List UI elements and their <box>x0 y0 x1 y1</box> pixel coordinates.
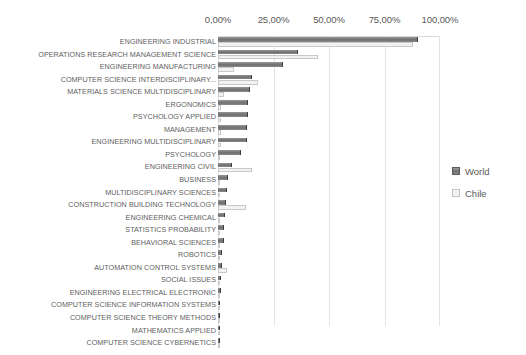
chart-category-row: ENGINEERING CIVIL <box>0 161 526 174</box>
category-bars <box>218 199 440 212</box>
chart-category-row: COMPUTER SCIENCE CYBERNETICS <box>0 337 526 350</box>
chart-category-row: OPERATIONS RESEARCH MANAGEMENT SCIENCE <box>0 49 526 62</box>
category-label: AUTOMATION CONTROL SYSTEMS <box>94 263 216 272</box>
bar-chile <box>218 331 220 336</box>
x-axis-tick-label: 0,00% <box>205 14 231 25</box>
bar-chile <box>218 243 220 248</box>
bar-chile <box>218 118 221 123</box>
category-bars <box>218 237 440 250</box>
chart-category-row: ENGINEERING MULTIDISCIPLINARY <box>0 136 526 149</box>
category-label: ERGONOMICS <box>166 100 216 109</box>
bar-chile <box>218 55 318 60</box>
category-label: ENGINEERING MULTIDISCIPLINARY <box>91 137 216 146</box>
chart-category-row: PSYCHOLOGY <box>0 149 526 162</box>
category-bars <box>218 212 440 225</box>
category-label: ENGINEERING ELECTRICAL ELECTRONIC <box>70 288 216 297</box>
bar-chile <box>218 318 220 323</box>
category-label: COMPUTER SCIENCE THEORY METHODS <box>70 313 216 322</box>
category-label: ENGINEERING MANUFACTURING <box>100 62 216 71</box>
category-label: COMPUTER SCIENCE CYBERNETICS <box>86 338 216 347</box>
bar-world <box>218 263 222 268</box>
bar-chile <box>218 205 246 210</box>
bar-world <box>218 37 418 42</box>
chart-category-row: CONSTRUCTION BUILDING TECHNOLOGY <box>0 199 526 212</box>
category-bars <box>218 312 440 325</box>
bar-chile <box>218 268 227 273</box>
bar-chile <box>218 105 221 110</box>
chart-category-row: ENGINEERING MANUFACTURING <box>0 61 526 74</box>
category-bars <box>218 74 440 87</box>
bar-world <box>218 313 220 318</box>
category-label: COMPUTER SCIENCE INTERDISCIPLINARY... <box>61 75 216 84</box>
category-label: BUSINESS <box>179 175 216 184</box>
bar-world <box>218 276 221 281</box>
bar-world <box>218 326 220 331</box>
category-bars <box>218 249 440 262</box>
category-label: MULTIDISCIPLINARY SCIENCES <box>105 188 216 197</box>
category-label: PSYCHOLOGY APPLIED <box>133 112 216 121</box>
category-label: OPERATIONS RESEARCH MANAGEMENT SCIENCE <box>38 50 216 59</box>
bar-world <box>218 100 248 105</box>
category-bars <box>218 36 440 49</box>
chart-category-row: ROBOTICS <box>0 249 526 262</box>
chart-category-row: COMPUTER SCIENCE INTERDISCIPLINARY... <box>0 74 526 87</box>
category-label: MATERIALS SCIENCE MULTIDISCIPLINARY <box>67 87 216 96</box>
bar-world <box>218 163 232 168</box>
bar-world <box>218 188 227 193</box>
category-bars <box>218 111 440 124</box>
category-bars <box>218 187 440 200</box>
chart-category-row: PSYCHOLOGY APPLIED <box>0 111 526 124</box>
chart-category-row: ENGINEERING ELECTRICAL ELECTRONIC <box>0 287 526 300</box>
legend-item[interactable]: World <box>452 163 522 179</box>
x-axis-tick-label: 25,00% <box>258 14 290 25</box>
chart-category-row: AUTOMATION CONTROL SYSTEMS <box>0 262 526 275</box>
bar-world <box>218 225 224 230</box>
category-bars <box>218 149 440 162</box>
bar-world <box>218 301 220 306</box>
category-bars <box>218 161 440 174</box>
legend-item[interactable]: Chile <box>452 185 522 201</box>
x-axis-tick-label: 75,00% <box>369 14 401 25</box>
horizontal-bar-chart: 0,00%25,00%50,00%75,00%100,00% ENGINEERI… <box>0 0 526 355</box>
bar-world <box>218 75 252 80</box>
category-label: MANAGEMENT <box>164 125 216 134</box>
bar-chile <box>218 80 258 85</box>
chart-category-row: COMPUTER SCIENCE THEORY METHODS <box>0 312 526 325</box>
category-label: MATHEMATICS APPLIED <box>132 326 216 335</box>
chart-category-row: MATERIALS SCIENCE MULTIDISCIPLINARY <box>0 86 526 99</box>
x-axis-tick-label: 50,00% <box>313 14 345 25</box>
legend-swatch-icon <box>452 167 460 175</box>
bar-chile <box>218 42 413 47</box>
bar-chile <box>218 92 224 97</box>
category-bars <box>218 274 440 287</box>
chart-legend: WorldChile <box>452 163 522 207</box>
bar-chile <box>218 168 252 173</box>
bar-chile <box>218 193 220 198</box>
category-label: ENGINEERING CHEMICAL <box>126 213 216 222</box>
bar-world <box>218 112 248 117</box>
bar-world <box>218 138 247 143</box>
chart-rows: ENGINEERING INDUSTRIALOPERATIONS RESEARC… <box>0 36 526 350</box>
chart-category-row: MATHEMATICS APPLIED <box>0 325 526 338</box>
bar-chile <box>218 231 220 236</box>
bar-chile <box>218 180 220 185</box>
bar-world <box>218 62 283 67</box>
legend-label: Chile <box>465 188 487 199</box>
chart-category-row: MULTIDISCIPLINARY SCIENCES <box>0 187 526 200</box>
bar-world <box>218 87 250 92</box>
bar-chile <box>218 155 220 160</box>
category-bars <box>218 174 440 187</box>
bar-chile <box>218 281 220 286</box>
bar-world <box>218 288 221 293</box>
legend-label: World <box>465 166 490 177</box>
chart-category-row: COMPUTER SCIENCE INFORMATION SYSTEMS <box>0 299 526 312</box>
category-bars <box>218 49 440 62</box>
category-bars <box>218 61 440 74</box>
category-bars <box>218 287 440 300</box>
category-label: PSYCHOLOGY <box>165 150 216 159</box>
chart-category-row: MANAGEMENT <box>0 124 526 137</box>
category-label: ENGINEERING INDUSTRIAL <box>120 37 216 46</box>
bar-world <box>218 175 228 180</box>
chart-category-row: SOCIAL ISSUES <box>0 274 526 287</box>
chart-category-row: STATISTICS PROBABILITY <box>0 224 526 237</box>
